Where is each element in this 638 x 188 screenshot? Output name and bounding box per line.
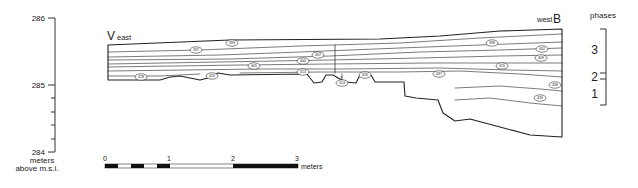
layer-label: 400 (300, 59, 306, 63)
layer-label: 418 (138, 75, 144, 79)
section-left-letter: V (107, 29, 115, 43)
phase-3-label: 3 (591, 43, 598, 57)
scale-tick-2: 2 (231, 155, 235, 162)
scale-tick-0: 0 (103, 155, 107, 162)
phases-title: phases (590, 11, 616, 20)
layer-label: 398 (489, 41, 495, 45)
elevation-axis (48, 18, 55, 152)
layer-label: 402 (539, 47, 545, 51)
layer-label: 397 (193, 48, 199, 52)
layer-label: 409 (538, 56, 544, 60)
axis-tick-285: 285 (32, 81, 46, 90)
layer-label: 437 (436, 72, 442, 76)
layer-label: 407 (315, 53, 321, 57)
layer-label: 420 (209, 74, 215, 78)
layer-label: 438 (552, 83, 558, 87)
phase-brackets (600, 29, 606, 105)
scale-tick-1: 1 (167, 155, 171, 162)
scale-bar (105, 164, 298, 168)
layer-label: 399 (229, 41, 235, 45)
phase-2-label: 2 (591, 70, 598, 84)
section-right-letter: B (553, 12, 561, 26)
layer-label: 426 (362, 73, 368, 77)
scale-unit: meters (301, 163, 323, 170)
layer-label: 405 (251, 64, 257, 68)
section-drawing: 286 285 284 meters above m.s.l. V east w… (0, 0, 638, 188)
section-left-direction: east (117, 33, 132, 42)
axis-unit-line2: above m.s.l. (15, 164, 58, 173)
layer-label: 413 (300, 70, 306, 74)
axis-tick-286: 286 (32, 14, 46, 23)
scale-tick-3: 3 (295, 155, 299, 162)
layer-label: 439 (537, 96, 543, 100)
section-right-direction: west (536, 15, 553, 24)
layer-label: 415 (499, 64, 505, 68)
phase-1-label: 1 (591, 87, 598, 101)
layer-label: 414 (339, 81, 345, 85)
